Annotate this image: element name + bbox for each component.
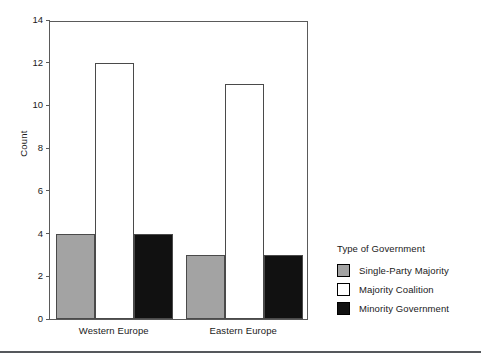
- legend-entry-label: Majority Coalition: [359, 284, 434, 295]
- legend-entry-label: Single-Party Majority: [359, 265, 449, 276]
- legend-title: Type of Government: [337, 243, 477, 254]
- legend-entry-label: Minority Government: [359, 303, 449, 314]
- bar: [225, 84, 264, 319]
- bar: [134, 234, 173, 319]
- bar: [56, 234, 95, 319]
- y-axis-tick-label: 8: [38, 141, 43, 155]
- y-axis-tick-label: 4: [38, 227, 43, 241]
- legend-swatch-icon: [337, 302, 350, 315]
- bar: [95, 63, 134, 319]
- y-axis-tick-label: 10: [32, 98, 43, 112]
- y-axis-tick-label: 0: [38, 312, 43, 326]
- x-axis-group-label: Eastern Europe: [165, 325, 322, 336]
- y-axis-tick-label: 12: [32, 56, 43, 70]
- y-axis-tick-label: 2: [38, 269, 43, 283]
- y-axis-tick-label: 6: [38, 184, 43, 198]
- bar: [186, 255, 225, 319]
- y-axis-tick-label: 14: [32, 13, 43, 27]
- footer-divider: [0, 351, 481, 353]
- legend-entry: Majority Coalition: [337, 280, 477, 299]
- legend-swatch-icon: [337, 264, 350, 277]
- bars-layer: [50, 22, 307, 319]
- legend: Type of Government Single-Party Majority…: [337, 243, 477, 318]
- tick-mark-icon: [46, 20, 50, 21]
- legend-swatch-icon: [337, 283, 350, 296]
- plot-area: 02468101214: [49, 21, 308, 320]
- legend-entries: Single-Party MajorityMajority CoalitionM…: [337, 261, 477, 318]
- bar: [264, 255, 303, 319]
- legend-entry: Single-Party Majority: [337, 261, 477, 280]
- legend-entry: Minority Government: [337, 299, 477, 318]
- y-axis-title: Count: [18, 109, 29, 179]
- bar-chart-figure: 02468101214 Count Western EuropeEastern …: [0, 0, 481, 362]
